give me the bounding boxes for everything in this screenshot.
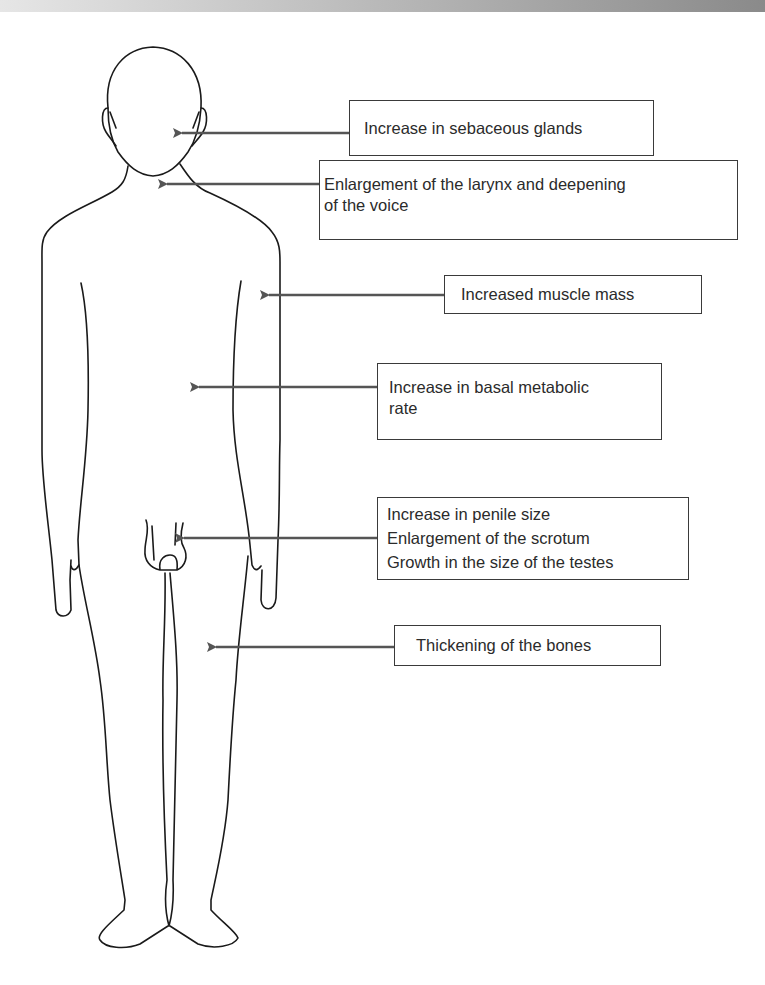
label-text: Enlargement of the scrotum — [387, 526, 688, 550]
label-text: Growth in the size of the testes — [387, 550, 688, 574]
label-text: Increased muscle mass — [461, 284, 701, 305]
genital-outline — [145, 520, 186, 570]
label-bone-thickening: Thickening of the bones — [394, 625, 661, 666]
label-text: of the voice — [324, 195, 737, 216]
label-text: Thickening of the bones — [416, 635, 660, 656]
label-text: Increase in sebaceous glands — [364, 118, 653, 139]
label-text: Increase in basal metabolic — [389, 377, 661, 398]
label-muscle-mass: Increased muscle mass — [444, 275, 702, 314]
head-outline — [108, 47, 202, 176]
label-text: rate — [389, 398, 661, 419]
label-basal-metabolic-rate: Increase in basal metabolic rate — [377, 363, 662, 440]
label-larynx-voice: Enlargement of the larynx and deepening … — [319, 160, 738, 240]
label-text: Increase in penile size — [387, 502, 688, 526]
left-body-outline — [42, 166, 128, 616]
label-text: Enlargement of the larynx and deepening — [324, 174, 737, 195]
label-sebaceous-glands: Increase in sebaceous glands — [349, 100, 654, 156]
label-genital-changes: Increase in penile size Enlargement of t… — [377, 497, 689, 580]
